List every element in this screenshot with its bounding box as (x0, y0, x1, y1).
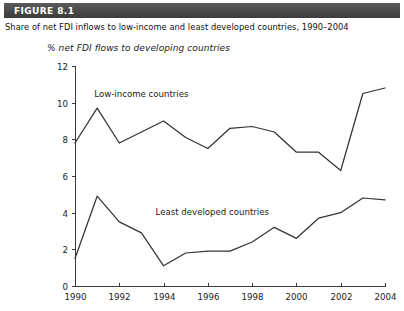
x-tick-label: 1998 (242, 292, 264, 302)
y-tick-label: 2 (63, 245, 68, 255)
x-tick-label: 2004 (375, 292, 397, 302)
y-tick-label: 10 (57, 99, 68, 109)
x-tick-label: 1990 (65, 292, 87, 302)
y-tick-label: 12 (57, 62, 68, 72)
x-tick-label: 2002 (331, 292, 353, 302)
y-tick-label: 0 (63, 282, 68, 292)
series-line-0 (75, 88, 385, 171)
series-label-1: Least developed countries (156, 207, 270, 217)
line-chart-plot: 0246810121990199219941996199820002002200… (0, 0, 404, 311)
x-tick-label: 2000 (286, 292, 308, 302)
series-label-0: Low-income countries (94, 89, 189, 99)
figure-container: FIGURE 8.1 Share of net FDI inflows to l… (0, 0, 404, 311)
x-tick-label: 1992 (109, 292, 131, 302)
y-tick-label: 4 (63, 209, 68, 219)
x-tick-label: 1996 (198, 292, 220, 302)
x-tick-label: 1994 (154, 292, 176, 302)
y-tick-label: 8 (63, 135, 68, 145)
y-tick-label: 6 (63, 172, 68, 182)
